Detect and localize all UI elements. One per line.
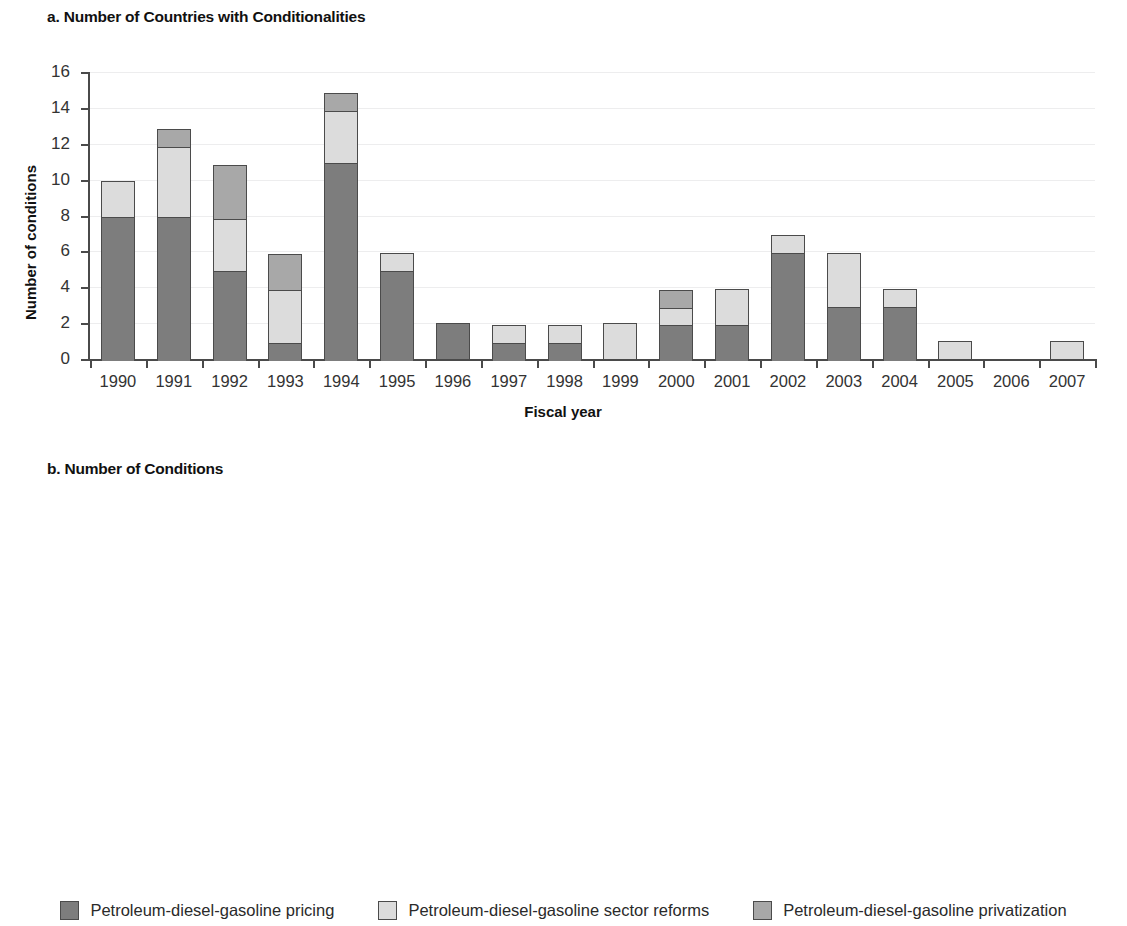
x-axis-tick (537, 359, 539, 368)
bar-segment (492, 343, 526, 361)
bar-segment (268, 254, 302, 290)
x-axis-tick-label: 2002 (770, 372, 807, 391)
x-axis-tick (1039, 359, 1041, 368)
bar-stack (883, 289, 917, 359)
bar-stack (771, 235, 805, 359)
x-axis-tick (369, 359, 371, 368)
bar-segment (938, 341, 972, 359)
legend-item-sector_reforms: Petroleum-diesel-gasoline sector reforms (378, 901, 709, 920)
x-axis-tick-label: 2004 (881, 372, 918, 391)
y-axis-tick (81, 216, 90, 218)
x-axis-tick-label: 1998 (546, 372, 583, 391)
bar-stack (268, 254, 302, 359)
gridline (90, 108, 1095, 109)
y-axis-tick-label: 4 (61, 277, 70, 297)
legend-label-pricing: Petroleum-diesel-gasoline pricing (90, 901, 334, 920)
x-axis-tick (146, 359, 148, 368)
x-axis-tick (648, 359, 650, 368)
x-axis-tick (872, 359, 874, 368)
x-axis-tick (258, 359, 260, 368)
bar-segment (101, 217, 135, 361)
y-axis-tick (81, 144, 90, 146)
y-axis-tick-label: 10 (51, 170, 70, 190)
legend-label-privatization: Petroleum-diesel-gasoline privatization (783, 901, 1066, 920)
y-axis-tick-label: 16 (51, 62, 70, 82)
bar-segment (380, 253, 414, 271)
panel-a-x-axis-title: Fiscal year (524, 403, 602, 420)
x-axis-tick-label: 1994 (323, 372, 360, 391)
bar-segment (157, 217, 191, 361)
chart-panel-b: b. Number of Conditions Number of countr… (0, 452, 1127, 872)
bar-segment (436, 323, 470, 359)
chart-panel-a: a. Number of Countries with Conditionali… (0, 0, 1127, 452)
bar-segment (324, 163, 358, 360)
x-axis-tick (90, 359, 92, 368)
gridline (90, 72, 1095, 73)
x-axis-tick (202, 359, 204, 368)
bar-stack (715, 289, 749, 359)
bar-stack (436, 323, 470, 359)
bar-segment (268, 290, 302, 344)
y-axis-tick-label: 0 (61, 349, 70, 369)
legend-swatch-sector_reforms (378, 901, 397, 920)
bar-segment (548, 343, 582, 361)
x-axis-tick-label: 2006 (993, 372, 1030, 391)
bar-segment (157, 147, 191, 219)
bar-segment (324, 93, 358, 111)
panel-b-title: b. Number of Conditions (47, 460, 223, 478)
bar-stack (603, 323, 637, 359)
x-axis-tick (816, 359, 818, 368)
bar-segment (157, 129, 191, 147)
x-axis-tick-label: 1990 (100, 372, 137, 391)
panel-a-plot-area: 0246810121416199019911992199319941995199… (88, 72, 1095, 361)
x-axis-tick (1095, 359, 1097, 368)
x-axis-tick-label: 1995 (379, 372, 416, 391)
y-axis-tick-label: 14 (51, 98, 70, 118)
bar-stack (1050, 341, 1084, 359)
bar-segment (827, 253, 861, 307)
bar-segment (771, 253, 805, 361)
y-axis-tick-label: 8 (61, 206, 70, 226)
bar-segment (1050, 341, 1084, 359)
bar-segment (827, 307, 861, 361)
x-axis-tick-label: 1997 (490, 372, 527, 391)
bar-segment (659, 308, 693, 326)
bar-segment (548, 325, 582, 343)
bar-stack (324, 93, 358, 359)
figure-root: a. Number of Countries with Conditionali… (0, 0, 1127, 926)
bar-stack (659, 290, 693, 359)
x-axis-tick-label: 2001 (714, 372, 751, 391)
bar-segment (492, 325, 526, 343)
x-axis-tick-label: 2007 (1049, 372, 1086, 391)
bar-stack (492, 325, 526, 359)
bar-segment (715, 289, 749, 325)
bar-segment (715, 325, 749, 361)
panel-a-title: a. Number of Countries with Conditionali… (47, 8, 365, 26)
x-axis-tick-label: 1996 (435, 372, 472, 391)
x-axis-tick (313, 359, 315, 368)
bar-segment (213, 165, 247, 219)
x-axis-tick (593, 359, 595, 368)
legend-item-pricing: Petroleum-diesel-gasoline pricing (60, 901, 334, 920)
bar-segment (101, 181, 135, 217)
bar-segment (771, 235, 805, 253)
gridline (90, 144, 1095, 145)
x-axis-tick-label: 1993 (267, 372, 304, 391)
bar-stack (157, 129, 191, 359)
x-axis-tick-label: 1991 (155, 372, 192, 391)
bar-segment (324, 111, 358, 165)
x-axis-tick-label: 1992 (211, 372, 248, 391)
bar-segment (659, 290, 693, 308)
bar-segment (659, 325, 693, 361)
y-axis-tick-label: 12 (51, 134, 70, 154)
y-axis-tick-label: 2 (61, 313, 70, 333)
panel-a-y-axis-title: Number of conditions (22, 165, 39, 320)
bar-stack (938, 341, 972, 359)
y-axis-tick (81, 108, 90, 110)
y-axis-tick (81, 287, 90, 289)
chart-legend: Petroleum-diesel-gasoline pricingPetrole… (0, 895, 1127, 926)
y-axis-tick (81, 359, 90, 361)
legend-swatch-privatization (753, 901, 772, 920)
bar-stack (548, 325, 582, 359)
x-axis-tick-label: 2000 (658, 372, 695, 391)
